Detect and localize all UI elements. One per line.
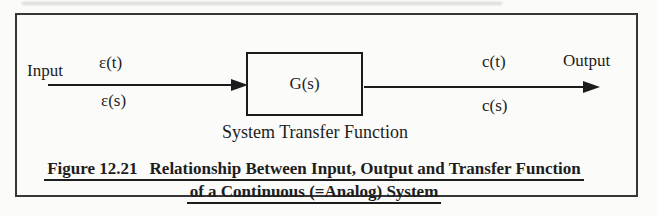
output-signal-laplace-label: c(s) [482, 97, 507, 115]
figure-canvas: Input ε(t) ε(s) G(s) System Transfer Fun… [0, 0, 658, 216]
figure-caption-line2: of a Continuous (=Analog) System [15, 181, 613, 204]
output-label: Output [563, 52, 610, 70]
figure-number: Figure 12.21 [47, 159, 137, 178]
figure-caption-line1: Figure 12.21Relationship Between Input, … [15, 159, 613, 181]
figure-caption: Figure 12.21Relationship Between Input, … [15, 159, 613, 204]
block-caption-label: System Transfer Function [222, 122, 408, 143]
output-signal-time-label: c(t) [482, 53, 506, 71]
transfer-function-block: G(s) [246, 52, 363, 116]
scan-artifact [22, 2, 502, 5]
output-arrowhead-icon [583, 81, 600, 93]
input-arrow-line [48, 84, 232, 86]
figure-title-line2: of a Continuous (=Analog) System [187, 182, 442, 204]
input-signal-laplace-label: ε(s) [101, 92, 126, 110]
block-label: G(s) [289, 74, 319, 94]
output-arrow-line [364, 86, 584, 88]
figure-title-line1: Relationship Between Input, Output and T… [150, 159, 581, 178]
input-label: Input [27, 62, 63, 80]
input-signal-time-label: ε(t) [99, 54, 122, 72]
